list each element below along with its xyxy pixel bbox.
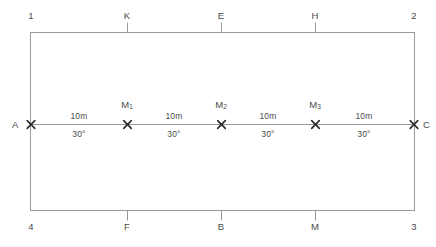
station-label-m3-subscript: 3 xyxy=(317,103,321,110)
diagram-canvas: 1 2 3 4 K E H F B M A C M1 M2 M3 10m 10m… xyxy=(0,0,436,247)
segment-distance-3: 10m xyxy=(259,112,276,121)
station-label-m1: M1 xyxy=(121,100,133,111)
segment-distance-4: 10m xyxy=(355,112,372,121)
station-label-m1-subscript: 1 xyxy=(129,103,133,110)
edge-label-f: F xyxy=(124,222,130,232)
station-label-m1-base: M xyxy=(121,99,129,110)
segment-distance-1: 10m xyxy=(70,112,87,121)
corner-label-4: 4 xyxy=(28,222,33,232)
edge-label-b: B xyxy=(218,222,225,232)
segment-angle-4: 30° xyxy=(357,130,370,139)
edge-label-h: H xyxy=(311,11,318,21)
edge-label-k: K xyxy=(124,11,131,21)
diagram-graphics xyxy=(0,0,436,247)
segment-distance-2: 10m xyxy=(165,112,182,121)
station-label-m3: M3 xyxy=(309,100,321,111)
segment-angle-3: 30° xyxy=(261,130,274,139)
station-label-m2: M2 xyxy=(215,100,227,111)
station-label-m3-base: M xyxy=(309,99,317,110)
station-label-m2-subscript: 2 xyxy=(223,103,227,110)
edge-label-m: M xyxy=(311,222,319,232)
segment-angle-2: 30° xyxy=(167,130,180,139)
corner-label-1: 1 xyxy=(28,11,33,21)
corner-label-2: 2 xyxy=(411,11,416,21)
edge-label-e: E xyxy=(218,11,225,21)
segment-angle-1: 30° xyxy=(72,130,85,139)
station-label-m2-base: M xyxy=(215,99,223,110)
centerline-label-c: C xyxy=(423,120,430,130)
corner-label-3: 3 xyxy=(411,222,416,232)
centerline-label-a: A xyxy=(12,120,19,130)
rectangle-outline xyxy=(31,33,415,211)
